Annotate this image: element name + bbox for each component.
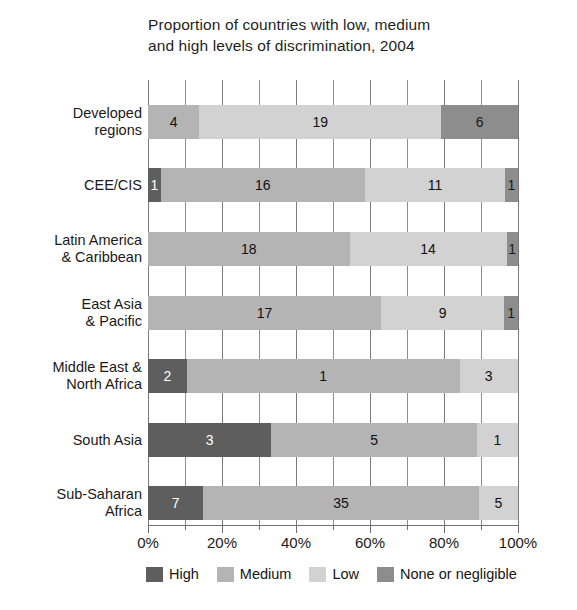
bar-segment-value: 1: [150, 177, 158, 193]
bar-segment-high[interactable]: 1: [148, 168, 161, 202]
bar-segment-value: 6: [476, 114, 484, 130]
category-label: Sub-SaharanAfrica: [10, 486, 142, 520]
bar-row[interactable]: 7355: [148, 486, 518, 520]
legend-label: High: [169, 566, 199, 582]
bar-segment-value: 1: [494, 432, 502, 448]
category-label-line: Developed: [10, 105, 142, 122]
bar-segment-low[interactable]: 11: [365, 168, 505, 202]
x-tick-label: 0%: [137, 534, 159, 551]
bar-segment-value: 3: [485, 368, 493, 384]
bar-segment-value: 18: [241, 241, 257, 257]
bar-segment-low[interactable]: 19: [199, 105, 441, 139]
bar-segment-medium[interactable]: 16: [161, 168, 365, 202]
category-label-line: & Caribbean: [10, 249, 142, 266]
bar-segment-medium[interactable]: 35: [203, 486, 479, 520]
category-label: Latin America& Caribbean: [10, 232, 142, 266]
legend-item-high[interactable]: High: [146, 566, 199, 582]
chart-title-line-2: and high levels of discrimination, 2004: [148, 35, 548, 56]
chart-title-line-1: Proportion of countries with low, medium: [148, 14, 548, 35]
bar-row[interactable]: 213: [148, 359, 518, 393]
x-tick-minor-10: [185, 525, 186, 530]
x-tick-major-0: [148, 525, 149, 533]
x-tick-label: 20%: [207, 534, 237, 551]
chart-legend: HighMediumLowNone or negligible: [146, 566, 535, 582]
bar-segment-none[interactable]: 1: [505, 168, 518, 202]
bar-segment-high[interactable]: 2: [148, 359, 187, 393]
category-label: Middle East &North Africa: [10, 359, 142, 393]
bar-segment-low[interactable]: 9: [381, 296, 504, 330]
bar-segment-value: 1: [507, 305, 515, 321]
gridline-100: [518, 80, 519, 525]
bar-segment-value: 2: [164, 368, 172, 384]
category-label-line: Middle East &: [10, 359, 142, 376]
category-label-line: & Pacific: [10, 313, 142, 330]
bar-segment-value: 17: [257, 305, 273, 321]
bar-segment-value: 35: [333, 495, 349, 511]
x-tick-minor-90: [481, 525, 482, 530]
bar-segment-value: 1: [508, 177, 516, 193]
bar-row[interactable]: 18141: [148, 232, 518, 266]
legend-item-medium[interactable]: Medium: [217, 566, 292, 582]
category-label-line: East Asia: [10, 296, 142, 313]
bar-segment-value: 14: [420, 241, 436, 257]
bar-row[interactable]: 116111: [148, 168, 518, 202]
category-label-line: CEE/CIS: [10, 177, 142, 194]
legend-item-low[interactable]: Low: [309, 566, 359, 582]
legend-label: None or negligible: [400, 566, 517, 582]
bar-row[interactable]: 4196: [148, 105, 518, 139]
x-tick-major-20: [222, 525, 223, 533]
bar-segment-high[interactable]: 7: [148, 486, 203, 520]
bar-segment-none[interactable]: 1: [504, 296, 518, 330]
bar-segment-medium[interactable]: 5: [271, 423, 477, 457]
bar-row[interactable]: 1791: [148, 296, 518, 330]
x-tick-major-60: [370, 525, 371, 533]
bar-segment-none[interactable]: 6: [441, 105, 518, 139]
bar-segment-value: 5: [494, 495, 502, 511]
bar-segment-value: 16: [255, 177, 271, 193]
bar-segment-medium[interactable]: 1: [187, 359, 460, 393]
category-label-line: North Africa: [10, 376, 142, 393]
category-label: Developedregions: [10, 105, 142, 139]
bar-segment-medium[interactable]: 17: [148, 296, 381, 330]
category-label: CEE/CIS: [10, 177, 142, 194]
legend-label: Low: [332, 566, 359, 582]
legend-item-none[interactable]: None or negligible: [377, 566, 517, 582]
bar-row[interactable]: 351: [148, 423, 518, 457]
x-tick-major-80: [444, 525, 445, 533]
bar-segment-low[interactable]: 5: [479, 486, 518, 520]
bar-segment-low[interactable]: 14: [350, 232, 507, 266]
bar-segment-value: 1: [319, 368, 327, 384]
bar-segment-high[interactable]: 3: [148, 423, 271, 457]
category-label-line: Africa: [10, 503, 142, 520]
plot-area: 41961161111814117912133517355: [148, 80, 518, 525]
legend-label: Medium: [240, 566, 292, 582]
category-label-line: Latin America: [10, 232, 142, 249]
bar-segment-value: 3: [206, 432, 214, 448]
x-tick-minor-50: [333, 525, 334, 530]
x-tick-label: 40%: [281, 534, 311, 551]
bar-segment-value: 1: [508, 241, 516, 257]
bar-segment-medium[interactable]: 4: [148, 105, 199, 139]
category-axis-labels: DevelopedregionsCEE/CISLatin America& Ca…: [8, 80, 142, 525]
x-tick-minor-30: [259, 525, 260, 530]
bar-segment-none[interactable]: 1: [507, 232, 518, 266]
x-tick-major-40: [296, 525, 297, 533]
bar-segment-low[interactable]: 1: [477, 423, 518, 457]
x-tick-label: 100%: [499, 534, 537, 551]
x-tick-major-100: [518, 525, 519, 533]
x-tick-label: 80%: [429, 534, 459, 551]
discrimination-stacked-bar-chart: Proportion of countries with low, medium…: [0, 0, 577, 610]
bar-segment-medium[interactable]: 18: [148, 232, 350, 266]
bar-segment-value: 19: [312, 114, 328, 130]
category-label: South Asia: [10, 432, 142, 449]
category-label-line: South Asia: [10, 432, 142, 449]
x-tick-label: 60%: [355, 534, 385, 551]
x-tick-minor-70: [407, 525, 408, 530]
bar-segment-value: 7: [172, 495, 180, 511]
category-label: East Asia& Pacific: [10, 296, 142, 330]
bar-segment-value: 11: [428, 177, 443, 193]
bar-segment-low[interactable]: 3: [460, 359, 518, 393]
legend-swatch-medium: [217, 567, 234, 582]
bar-segment-value: 5: [370, 432, 378, 448]
chart-title: Proportion of countries with low, medium…: [148, 14, 548, 56]
